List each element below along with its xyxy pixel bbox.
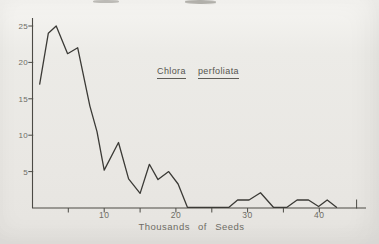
chart-title: Chlora perfoliata — [157, 66, 239, 79]
chart-canvas: 51015202510203040 — [0, 0, 379, 244]
x-tick-label: 20 — [171, 210, 181, 220]
x-tick-label: 30 — [242, 210, 252, 220]
y-tick-label: 20 — [19, 58, 29, 67]
y-tick-label: 15 — [19, 95, 29, 104]
data-polyline — [40, 26, 337, 207]
chart-title-genus: Chlora — [157, 66, 186, 79]
y-tick-label: 25 — [19, 22, 29, 31]
scanned-figure-page: 51015202510203040 Chlora perfoliata Thou… — [0, 0, 379, 244]
y-tick-label: 5 — [23, 168, 28, 177]
axes-line — [33, 18, 367, 208]
x-tick-label: 40 — [314, 210, 324, 220]
chart-title-species: perfoliata — [198, 66, 239, 79]
x-tick-label: 10 — [99, 210, 109, 220]
y-tick-label: 10 — [19, 131, 29, 140]
x-axis-title: Thousands of Seeds — [120, 221, 263, 232]
